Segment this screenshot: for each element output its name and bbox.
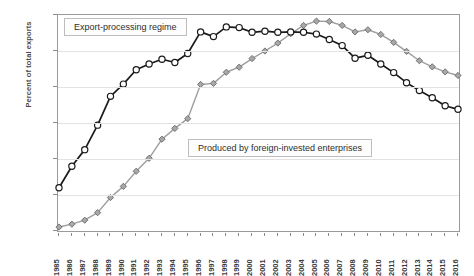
data-point-circle [403, 80, 409, 86]
x-tick-label: 2003 [284, 259, 293, 276]
x-tick-mark [328, 233, 329, 236]
data-point-diamond [56, 224, 62, 230]
x-tick-label: 2007 [335, 259, 344, 276]
data-point-circle [146, 61, 152, 67]
x-tick-mark [251, 233, 252, 236]
x-tick-mark [393, 233, 394, 236]
data-point-circle [326, 36, 332, 42]
x-tick-label: 2000 [245, 259, 254, 276]
chart-container: Percent of total exports 0%10%20%30%40%5… [0, 0, 474, 276]
x-tick-mark [58, 233, 59, 236]
data-point-circle [275, 29, 281, 35]
x-tick-mark [122, 233, 123, 236]
x-tick-mark [341, 233, 342, 236]
data-point-circle [56, 185, 62, 191]
data-point-diamond [69, 221, 75, 227]
series-2 [56, 18, 461, 230]
series-line [59, 21, 458, 227]
data-point-circle [82, 147, 88, 153]
x-tick-mark [161, 233, 162, 236]
data-point-circle [197, 29, 203, 35]
x-tick-label: 1998 [220, 259, 229, 276]
data-point-circle [159, 56, 165, 62]
x-tick-label: 2001 [258, 259, 267, 276]
data-point-diamond [352, 29, 358, 35]
series-1 [56, 24, 461, 191]
x-tick-mark [148, 233, 149, 236]
x-tick-label: 2009 [361, 259, 370, 276]
data-point-diamond [313, 18, 319, 24]
data-point-diamond [429, 64, 435, 70]
x-tick-label: 1997 [207, 259, 216, 276]
data-point-diamond [82, 217, 88, 223]
x-tick-mark [277, 233, 278, 236]
data-point-circle [69, 163, 75, 169]
gridline [58, 123, 459, 124]
x-tick-mark [174, 233, 175, 236]
data-point-circle [223, 24, 229, 30]
data-point-circle [442, 103, 448, 109]
x-tick-label: 2016 [451, 259, 460, 276]
x-tick-mark [431, 233, 432, 236]
data-point-diamond [455, 72, 461, 78]
x-tick-mark [71, 233, 72, 236]
x-tick-mark [418, 233, 419, 236]
x-tick-label: 2013 [413, 259, 422, 276]
x-tick-label: 1991 [129, 259, 138, 276]
data-point-diamond [326, 18, 332, 24]
x-tick-label: 1999 [232, 259, 241, 276]
data-point-circle [455, 106, 461, 112]
x-tick-mark [264, 233, 265, 236]
x-tick-mark [406, 233, 407, 236]
x-tick-label: 1985 [52, 259, 61, 276]
x-tick-label: 2006 [322, 259, 331, 276]
x-tick-label: 1988 [91, 259, 100, 276]
x-tick-mark [97, 233, 98, 236]
data-point-circle [391, 70, 397, 76]
x-tick-label: 2012 [400, 259, 409, 276]
x-tick-mark [444, 233, 445, 236]
x-tick-mark [238, 233, 239, 236]
gridline [58, 51, 459, 52]
x-tick-mark [303, 233, 304, 236]
x-tick-label: 1986 [65, 259, 74, 276]
x-tick-mark [380, 233, 381, 236]
gridline [58, 87, 459, 88]
x-tick-mark [200, 233, 201, 236]
x-tick-mark [354, 233, 355, 236]
data-point-circle [236, 25, 242, 31]
x-tick-label: 2010 [374, 259, 383, 276]
gridline [58, 195, 459, 196]
x-tick-mark [367, 233, 368, 236]
data-point-circle [352, 55, 358, 61]
data-point-circle [107, 93, 113, 99]
x-tick-mark [84, 233, 85, 236]
data-point-circle [313, 31, 319, 37]
x-tick-mark [212, 233, 213, 236]
x-tick-label: 1994 [168, 259, 177, 276]
data-point-circle [416, 88, 422, 94]
x-tick-label: 1987 [78, 259, 87, 276]
x-tick-mark [187, 233, 188, 236]
data-point-diamond [442, 69, 448, 75]
data-point-circle [365, 52, 371, 58]
x-tick-label: 2008 [348, 259, 357, 276]
x-tick-mark [457, 233, 458, 236]
annotation-foreign-invested-enterprises: Produced by foreign-invested enterprises [188, 139, 372, 157]
data-point-circle [378, 61, 384, 67]
data-point-circle [210, 34, 216, 40]
data-point-circle [262, 28, 268, 34]
x-tick-label: 1989 [104, 259, 113, 276]
data-point-diamond [365, 27, 371, 33]
plot-area [57, 14, 460, 232]
x-tick-label: 2014 [425, 259, 434, 276]
x-tick-label: 2011 [387, 260, 396, 276]
x-tick-label: 1992 [142, 259, 151, 276]
y-axis-title: Percent of total exports [24, 0, 33, 155]
data-point-circle [172, 59, 178, 65]
data-point-diamond [378, 31, 384, 37]
data-point-circle [339, 43, 345, 49]
x-tick-label: 1993 [155, 259, 164, 276]
x-tick-mark [135, 233, 136, 236]
annotation-export-processing-regime: Export-processing regime [64, 18, 187, 36]
